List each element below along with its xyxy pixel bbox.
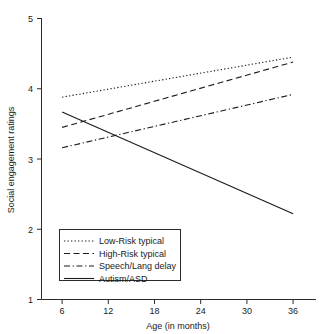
series-line-high-risk-typical bbox=[62, 62, 293, 127]
legend-label-speech-lang-delay: Speech/Lang delay bbox=[99, 261, 177, 271]
y-tick-label-1: 1 bbox=[28, 295, 33, 305]
y-tick-label-5: 5 bbox=[28, 14, 33, 24]
series-group bbox=[62, 57, 293, 214]
x-tick-labels: 6 12 18 24 30 36 bbox=[60, 306, 299, 316]
line-chart: 5 4 3 2 1 6 12 18 24 30 36 Age (in month… bbox=[0, 0, 323, 334]
x-tick-label-12: 12 bbox=[103, 306, 113, 316]
chart-figure: 5 4 3 2 1 6 12 18 24 30 36 Age (in month… bbox=[0, 0, 323, 334]
series-line-speech-lang-delay bbox=[62, 94, 293, 147]
y-tick-label-3: 3 bbox=[28, 155, 33, 165]
x-tick-marks bbox=[62, 300, 293, 305]
chart-legend: Low-Risk typical High-Risk typical Speec… bbox=[60, 230, 181, 284]
y-tick-label-2: 2 bbox=[28, 225, 33, 235]
series-line-low-risk-typical bbox=[62, 57, 293, 97]
x-tick-label-18: 18 bbox=[149, 306, 159, 316]
x-tick-label-36: 36 bbox=[288, 306, 298, 316]
y-axis-title: Social engagement ratings bbox=[6, 106, 16, 213]
x-tick-label-30: 30 bbox=[242, 306, 252, 316]
y-tick-label-4: 4 bbox=[28, 84, 33, 94]
legend-label-low-risk-typical: Low-Risk typical bbox=[99, 236, 164, 246]
y-tick-marks bbox=[37, 19, 42, 300]
x-axis-title: Age (in months) bbox=[146, 321, 210, 331]
x-tick-label-24: 24 bbox=[196, 306, 206, 316]
y-tick-labels: 5 4 3 2 1 bbox=[28, 14, 33, 305]
legend-label-high-risk-typical: High-Risk typical bbox=[99, 249, 166, 259]
x-tick-label-6: 6 bbox=[60, 306, 65, 316]
legend-label-autism-asd: Autism/ASD bbox=[99, 274, 148, 284]
series-line-autism-asd bbox=[62, 112, 293, 214]
